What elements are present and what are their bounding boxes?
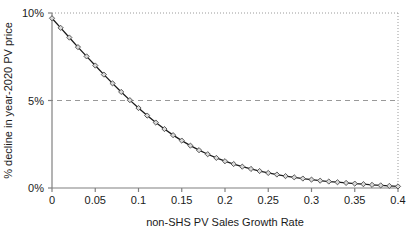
x-tick-label: 0 <box>49 194 55 206</box>
y-tick-label: 10% <box>22 7 44 19</box>
x-tick-label: 0.3 <box>304 194 319 206</box>
x-axis-ticks <box>52 188 398 192</box>
chart-svg: 00.050.10.150.20.250.30.350.4 0%5%10% no… <box>0 0 412 234</box>
x-tick-label: 0.4 <box>390 194 405 206</box>
y-axis-tick-labels: 0%5%10% <box>22 7 44 194</box>
chart-figure: 00.050.10.150.20.250.30.350.4 0%5%10% no… <box>0 0 412 234</box>
y-tick-label: 0% <box>28 182 44 194</box>
y-axis-title: % decline in year-2020 PV price <box>2 22 14 179</box>
x-tick-label: 0.25 <box>258 194 279 206</box>
x-tick-label: 0.2 <box>217 194 232 206</box>
x-axis-tick-labels: 00.050.10.150.20.250.30.350.4 <box>49 194 406 206</box>
x-axis-title: non-SHS PV Sales Growth Rate <box>146 216 304 228</box>
x-tick-label: 0.35 <box>344 194 365 206</box>
y-tick-label: 5% <box>28 95 44 107</box>
x-tick-label: 0.1 <box>131 194 146 206</box>
x-tick-label: 0.15 <box>171 194 192 206</box>
x-tick-label: 0.05 <box>85 194 106 206</box>
